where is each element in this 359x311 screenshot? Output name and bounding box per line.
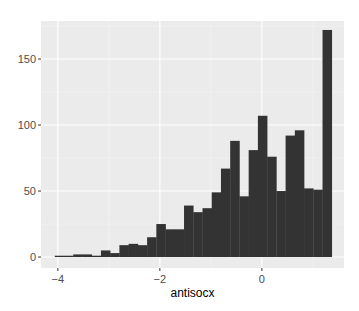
x-tick-label: −4 — [52, 273, 65, 285]
histogram-bar — [221, 169, 231, 257]
histogram-bar — [212, 192, 222, 257]
histogram-bar — [138, 245, 148, 257]
histogram-bar — [323, 30, 333, 257]
histogram-bar — [267, 157, 277, 257]
histogram-bar — [230, 141, 240, 257]
histogram-bar — [166, 229, 176, 257]
histogram-bar — [129, 244, 139, 257]
histogram-bar — [73, 254, 83, 257]
histogram-bar — [184, 206, 194, 257]
histogram-bar — [156, 224, 166, 257]
histogram-bar — [258, 116, 268, 257]
histogram-bar — [202, 208, 212, 257]
histogram-bar — [175, 229, 185, 257]
histogram-bar — [304, 188, 314, 257]
histogram-bar — [239, 196, 249, 257]
x-axis-title: antisocx — [170, 286, 214, 300]
histogram-bar — [55, 256, 65, 257]
histogram-bar — [101, 250, 111, 257]
y-axis: 050100150 — [18, 53, 41, 263]
y-tick-label: 0 — [30, 251, 36, 263]
histogram-bar — [249, 150, 259, 257]
y-tick-label: 50 — [24, 185, 36, 197]
histogram-bar — [286, 136, 296, 257]
x-tick-label: 0 — [259, 273, 265, 285]
histogram-bar — [119, 245, 129, 257]
histogram-bar — [295, 130, 305, 257]
histogram-bar — [313, 190, 323, 257]
histogram-bar — [110, 253, 120, 257]
y-tick-label: 150 — [18, 53, 36, 65]
histogram-bar — [147, 237, 157, 257]
histogram-chart: 050100150 −4−20 antisocx — [0, 0, 359, 311]
histogram-bar — [82, 254, 92, 257]
histogram-bar — [92, 256, 102, 257]
histogram-bar — [64, 256, 74, 257]
x-axis: −4−20 — [52, 268, 265, 285]
histogram-bar — [193, 212, 203, 257]
x-tick-label: −2 — [154, 273, 167, 285]
histogram-bar — [276, 191, 286, 257]
y-tick-label: 100 — [18, 119, 36, 131]
